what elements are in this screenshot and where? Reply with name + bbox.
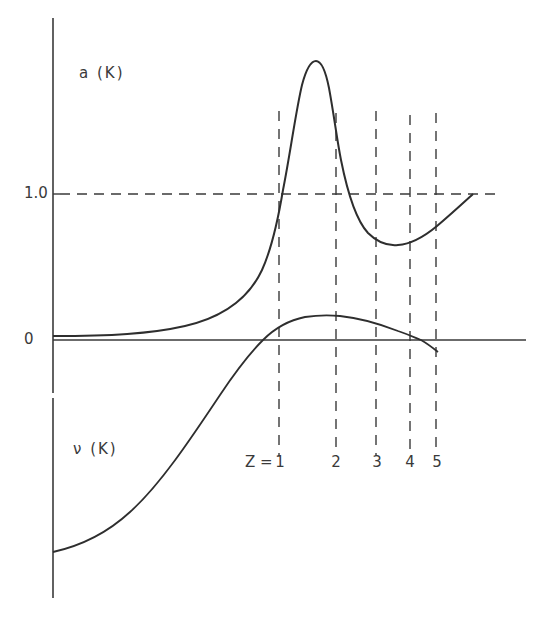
- a-curve-label: a (K): [79, 66, 125, 81]
- z-label-3: 3: [372, 455, 382, 470]
- y-tick-one-label: 1.0: [24, 186, 48, 201]
- z-label-2: 2: [331, 455, 341, 470]
- z-label-4: 4: [405, 455, 415, 470]
- y-tick-zero-label: 0: [24, 332, 34, 347]
- z-label-1: 1: [275, 455, 285, 470]
- z-prefix-label: Z =: [245, 455, 273, 470]
- a-of-k-curve: [53, 61, 473, 336]
- plot-svg: [0, 0, 547, 618]
- nu-curve-label: ν (K): [73, 442, 118, 457]
- nu-of-k-curve: [53, 315, 438, 552]
- z-label-5: 5: [432, 455, 442, 470]
- figure-canvas: a (K) ν (K) 1.0 0 Z = 1 2 3 4 5: [0, 0, 547, 618]
